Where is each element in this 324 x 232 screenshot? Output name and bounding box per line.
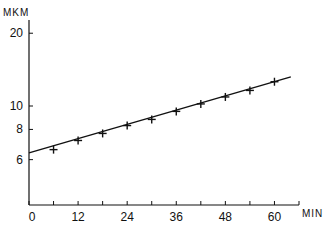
x-tick-label: 48 xyxy=(219,210,233,224)
x-tick-label: 12 xyxy=(71,210,85,224)
x-axis-unit-label: MIN xyxy=(302,208,323,219)
data-point-plus-marker xyxy=(270,78,278,86)
x-tick-label: 60 xyxy=(268,210,282,224)
x-tick-label: 0 xyxy=(29,210,36,224)
fit-line xyxy=(29,77,291,153)
data-point-plus-marker xyxy=(221,93,229,101)
y-axis-unit-label: MKM xyxy=(3,7,29,18)
y-tick-label: 8 xyxy=(16,122,23,136)
line-chart: MKM MIN 681020 01224364860 xyxy=(0,0,324,232)
x-tick-label: 24 xyxy=(121,210,135,224)
data-point-plus-marker xyxy=(123,122,131,130)
y-tick-label: 20 xyxy=(10,26,24,40)
y-tick-label: 6 xyxy=(16,153,23,167)
y-tick-label: 10 xyxy=(10,99,24,113)
data-series xyxy=(29,77,291,154)
axes xyxy=(29,20,299,205)
x-tick-label: 36 xyxy=(170,210,184,224)
data-point-plus-marker xyxy=(197,100,205,108)
